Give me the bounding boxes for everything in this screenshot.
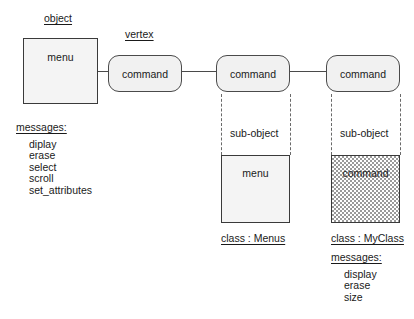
object-box-menu-label: menu bbox=[23, 52, 98, 63]
sub-object-label-right: sub-object bbox=[340, 128, 388, 139]
dashed-line-left-2 bbox=[290, 94, 291, 155]
messages-right-item-2: size bbox=[331, 292, 382, 304]
messages-list-left: messages: diplay erase select scroll set… bbox=[16, 122, 92, 196]
dashed-line-right-1 bbox=[331, 94, 332, 155]
sub-object-box-menu bbox=[221, 155, 290, 223]
connector-vertex1-to-vertex2 bbox=[182, 71, 216, 72]
messages-left-heading: messages: bbox=[16, 122, 92, 133]
connector-vertex2-to-vertex3 bbox=[290, 71, 326, 72]
vertex-box-1: command bbox=[108, 55, 182, 92]
messages-right-item-1: erase bbox=[331, 280, 382, 292]
messages-left-item-3: scroll bbox=[16, 173, 92, 185]
dashed-line-right-2 bbox=[400, 94, 401, 155]
class-label-myclass: class : MyClass bbox=[331, 233, 404, 244]
sub-object-box-command bbox=[331, 155, 400, 223]
sub-object-label-left: sub-object bbox=[230, 128, 278, 139]
dashed-line-left-1 bbox=[221, 94, 222, 155]
messages-left-item-4: set_attributes bbox=[16, 185, 92, 197]
diagram-canvas: object vertex menu command command comma… bbox=[0, 0, 414, 319]
sub-object-box-menu-label: menu bbox=[221, 168, 290, 179]
messages-list-right: messages: display erase size bbox=[331, 252, 382, 303]
object-label: object bbox=[44, 13, 72, 24]
class-label-menus: class : Menus bbox=[221, 233, 285, 244]
messages-right-heading: messages: bbox=[331, 252, 382, 263]
messages-left-item-1: erase bbox=[16, 150, 92, 162]
messages-left-item-2: select bbox=[16, 162, 92, 174]
sub-object-box-command-label: command bbox=[331, 168, 400, 179]
vertex-label: vertex bbox=[125, 29, 154, 40]
object-box-menu bbox=[23, 38, 98, 104]
vertex-box-3: command bbox=[326, 55, 400, 92]
vertex-box-2: command bbox=[216, 55, 290, 92]
